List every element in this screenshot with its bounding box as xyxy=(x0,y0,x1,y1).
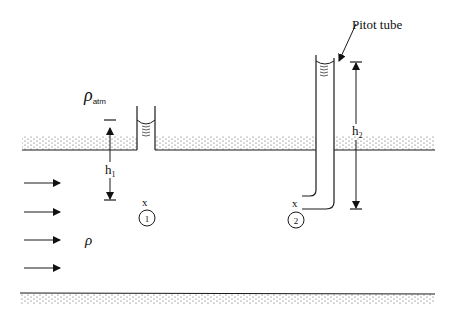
svg-text:1: 1 xyxy=(145,214,150,224)
svg-text:2: 2 xyxy=(294,216,299,226)
point2-mark: x xyxy=(292,197,298,209)
pitot-tube xyxy=(302,55,334,209)
h1-label: h1 xyxy=(105,162,116,179)
pitot-leader-arrow xyxy=(339,24,356,61)
h1-dimension-arrow xyxy=(104,120,116,200)
point2-marker: 2 xyxy=(288,212,304,228)
piezometer-tube xyxy=(137,106,155,150)
fluid-diagram: h1 ρatm x 1 Pitot tube h2 x 2 xyxy=(0,0,458,311)
h2-label: h2 xyxy=(352,123,363,140)
bottom-wall xyxy=(20,293,435,304)
rho-fluid-label: ρ xyxy=(84,232,92,248)
point1-mark: x xyxy=(142,196,148,208)
flow-arrows xyxy=(24,183,60,268)
pitot-tube-label: Pitot tube xyxy=(352,17,402,32)
rho-atm-label: ρatm xyxy=(83,85,106,106)
point1-marker: 1 xyxy=(139,210,155,226)
top-wall xyxy=(22,136,435,150)
